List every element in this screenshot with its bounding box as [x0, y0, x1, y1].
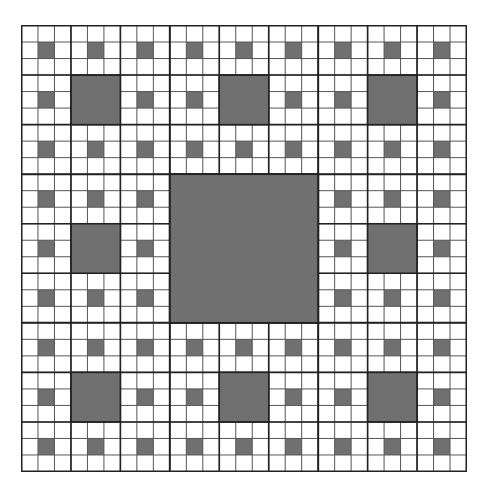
filled-square [434, 191, 450, 208]
filled-square [137, 438, 153, 455]
filled-square [87, 141, 103, 158]
filled-square [434, 438, 450, 455]
filled-square [285, 389, 301, 406]
filled-square [434, 92, 450, 109]
filled-square [285, 141, 301, 158]
filled-square [384, 339, 400, 356]
filled-square [285, 339, 301, 356]
filled-square [285, 92, 301, 109]
filled-square [38, 339, 54, 356]
filled-square [87, 290, 103, 307]
filled-square [434, 42, 450, 59]
filled-square [38, 42, 54, 59]
filled-square [87, 42, 103, 59]
sierpinski-carpet-diagram [21, 25, 467, 472]
filled-square [236, 339, 252, 356]
filled-square [384, 438, 400, 455]
filled-square [236, 141, 252, 158]
filled-square [186, 141, 202, 158]
filled-square [335, 240, 351, 257]
filled-square [384, 42, 400, 59]
filled-square [186, 438, 202, 455]
filled-square [87, 438, 103, 455]
filled-square [335, 290, 351, 307]
filled-square [137, 389, 153, 406]
filled-square [186, 339, 202, 356]
filled-square [384, 290, 400, 307]
filled-square [285, 438, 301, 455]
filled-square [434, 240, 450, 257]
filled-square [38, 389, 54, 406]
filled-square [335, 438, 351, 455]
filled-square [38, 438, 54, 455]
filled-square [137, 141, 153, 158]
filled-square [137, 92, 153, 109]
filled-square [335, 141, 351, 158]
filled-square [137, 42, 153, 59]
filled-square [434, 141, 450, 158]
filled-square [236, 42, 252, 59]
filled-square [38, 290, 54, 307]
filled-square [434, 389, 450, 406]
filled-square [186, 42, 202, 59]
filled-square [335, 389, 351, 406]
filled-square [38, 92, 54, 109]
filled-square [335, 92, 351, 109]
filled-square [384, 191, 400, 208]
filled-square [38, 240, 54, 257]
filled-square [137, 290, 153, 307]
filled-square [285, 42, 301, 59]
filled-square [87, 191, 103, 208]
filled-square [434, 290, 450, 307]
filled-square [384, 141, 400, 158]
filled-square [335, 191, 351, 208]
filled-square [186, 92, 202, 109]
filled-square [87, 339, 103, 356]
filled-square [38, 191, 54, 208]
filled-square [434, 339, 450, 356]
filled-square [335, 339, 351, 356]
filled-square [186, 389, 202, 406]
filled-square [137, 240, 153, 257]
thick-grid-lines [22, 26, 467, 472]
filled-square [335, 42, 351, 59]
filled-square [137, 191, 153, 208]
filled-square [38, 141, 54, 158]
filled-square [137, 339, 153, 356]
filled-square [236, 438, 252, 455]
